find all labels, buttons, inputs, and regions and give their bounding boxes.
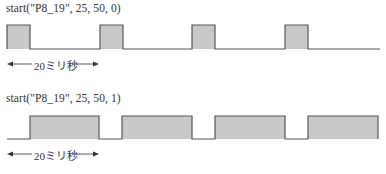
period-label-2: 20ミリ秒 xyxy=(34,147,78,163)
waveform-polarity-0 xyxy=(7,25,380,49)
waveform-polarity-1 xyxy=(7,116,378,139)
period-label-1: 20ミリ秒 xyxy=(34,57,78,73)
